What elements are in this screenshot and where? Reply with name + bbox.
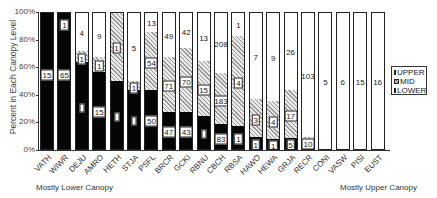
segment-value-label: [79, 103, 84, 112]
segment-value-label: [114, 113, 119, 122]
bar-amro: 1519: [92, 12, 106, 150]
segment-value-label: 103: [301, 71, 314, 80]
segment-value-label: 7: [254, 53, 258, 62]
segment-value-label: 4: [234, 77, 242, 88]
bar-heth: 1: [110, 12, 124, 150]
segment-value-label: 1: [60, 20, 68, 31]
segment-value-label: 4: [80, 29, 84, 38]
upper-swatch-icon: [394, 70, 396, 75]
y-tick-100: 100%: [8, 7, 35, 16]
y-tick-80: 80%: [8, 35, 35, 44]
segment-lower: [41, 12, 53, 149]
bar-hewa: 149: [266, 12, 280, 150]
segment-value-label: 1: [95, 61, 103, 72]
bar-recr: 10103: [301, 12, 315, 150]
bar-vasw: 6: [336, 12, 350, 150]
segment-value-label: 9: [271, 53, 275, 62]
segment-value-label: 71: [162, 81, 175, 92]
y-tick-40: 40%: [8, 90, 35, 99]
y-tick-0: 0%: [8, 145, 35, 154]
legend-item-lower: LOWER: [394, 86, 424, 95]
bar-cbch: 83183208: [214, 12, 228, 150]
legend-item-mid: MID: [394, 77, 424, 86]
segment-value-label: 42: [182, 27, 191, 36]
segment-value-label: 1: [269, 141, 277, 150]
segment-value-label: 83: [215, 133, 228, 144]
segment-value-label: 65: [58, 70, 71, 81]
legend-label-mid: MID: [400, 77, 415, 86]
bar-rbsa: 141: [231, 12, 245, 150]
bar-psfl: 505413: [144, 12, 158, 150]
segment-value-label: [132, 117, 137, 126]
segment-lower: [58, 12, 70, 149]
segment-value-label: 54: [145, 57, 158, 68]
segment-value-label: 47: [162, 127, 175, 138]
annotation-upper-canopy: Mostly Upper Canopy: [340, 183, 417, 192]
bar-hawo: 137: [249, 12, 263, 150]
segment-value-label: 5: [132, 44, 136, 53]
segment-value-label: 9: [97, 31, 101, 40]
annotation-lower-canopy: Mostly Lower Canopy: [36, 183, 113, 192]
segment-value-label: 1: [130, 82, 138, 93]
segment-value-label: 50: [145, 116, 158, 127]
segment-value-label: 17: [284, 110, 297, 121]
bar-rbnu: 1513: [197, 12, 211, 150]
segment-value-label: 1: [234, 134, 242, 145]
y-axis: [38, 12, 39, 150]
segment-value-label: 5: [286, 140, 294, 150]
legend-label-upper: UPPER: [397, 68, 425, 77]
legend-item-upper: UPPER: [394, 68, 424, 77]
bar-stja: 15: [127, 12, 141, 150]
segment-value-label: 15: [93, 107, 106, 118]
segment-value-label: 1: [112, 43, 120, 54]
legend: UPPER MID LOWER: [391, 66, 427, 95]
legend-label-lower: LOWER: [397, 86, 426, 95]
segment-value-label: [201, 130, 206, 139]
y-tick-20: 20%: [8, 117, 35, 126]
segment-value-label: 3: [252, 114, 260, 125]
segment-value-label: 70: [180, 77, 193, 88]
segment-value-label: 16: [373, 78, 382, 87]
segment-value-label: 13: [199, 33, 208, 42]
bar-deju: 14: [75, 12, 89, 150]
bar-eust: 16: [371, 12, 385, 150]
mid-swatch-icon: [394, 79, 399, 84]
segment-value-label: 13: [147, 19, 156, 28]
bar-coni: 5: [318, 12, 332, 150]
segment-value-label: 15: [41, 70, 54, 81]
segment-value-label: 15: [197, 85, 210, 96]
segment-value-label: 6: [341, 78, 345, 87]
y-tick-60: 60%: [8, 62, 35, 71]
segment-value-label: 43: [180, 127, 193, 138]
bar-grja: 51726: [284, 12, 298, 150]
lower-swatch-icon: [394, 88, 396, 93]
x-axis: [38, 150, 390, 151]
bar-gcki: 437042: [179, 12, 193, 150]
segment-value-label: 208: [214, 40, 227, 49]
bar-vath: 15: [40, 12, 54, 150]
segment-value-label: 183: [214, 95, 228, 106]
bar-brcr: 477149: [162, 12, 176, 150]
segment-value-label: 1: [236, 21, 240, 30]
segment-value-label: 1: [78, 53, 86, 64]
segment-value-label: 26: [286, 48, 295, 57]
segment-value-label: 4: [269, 117, 277, 128]
segment-value-label: 15: [356, 78, 365, 87]
segment-value-label: 1: [252, 139, 260, 150]
segment-value-label: 10: [302, 139, 315, 150]
bar-pisi: 15: [353, 12, 367, 150]
segment-value-label: 5: [323, 78, 327, 87]
segment-value-label: 49: [164, 31, 173, 40]
bar-wiwr: 651: [57, 12, 71, 150]
